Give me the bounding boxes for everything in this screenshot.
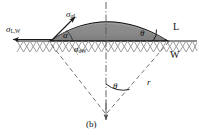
- radius-lines: [49, 42, 169, 114]
- droplet-contact-angle-figure: [0, 0, 199, 136]
- label-alpha-angle: α: [63, 31, 68, 40]
- label-phase-W: W: [170, 50, 179, 60]
- theta-bottom-angle-arc-icon: [106, 84, 130, 90]
- label-theta-contact-angle: θ: [140, 29, 144, 38]
- label-sigma-alphaL: σαL: [66, 10, 77, 20]
- label-sigma-alphaW-subscript: αW: [78, 48, 86, 54]
- label-sigma-alphaL-subscript: αL: [70, 13, 76, 19]
- label-theta-central-angle: θ: [113, 82, 117, 91]
- label-radius: r: [147, 78, 151, 87]
- figure-caption: (b): [86, 120, 97, 129]
- label-sigma-LW-subscript: L,W: [10, 28, 20, 34]
- label-phase-L: L: [173, 22, 179, 32]
- label-sigma-LW: σL,W: [6, 25, 20, 35]
- label-sigma-alphaW: σαW: [74, 45, 86, 55]
